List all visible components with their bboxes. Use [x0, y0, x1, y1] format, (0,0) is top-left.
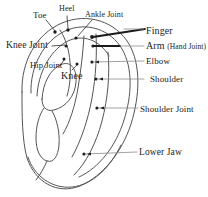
label-arm-hand-joint: Arm (Hand Joint) [146, 41, 206, 51]
leader-lower-jaw [85, 152, 137, 154]
point-ankle-joint [74, 36, 77, 39]
ear-reflexology-figure: Toe Heel Ankle Joint Finger Arm (Hand Jo… [0, 0, 208, 197]
leader-heel [67, 16, 68, 28]
label-elbow: Elbow [146, 57, 170, 66]
label-heel: Heel [59, 5, 75, 13]
label-lower-jaw: Lower Jaw [139, 148, 182, 158]
arrowhead-shoulder [99, 77, 103, 80]
label-arm-main: Arm [146, 40, 167, 51]
label-knee-joint: Knee Joint [6, 41, 48, 51]
label-ankle-joint: Ankle Joint [85, 11, 123, 19]
scaphoid-fossa-line [72, 34, 96, 157]
ear-diagram-svg [0, 0, 208, 197]
point-heel [66, 28, 69, 31]
label-hip-joint: Hip Joint [30, 61, 62, 70]
label-arm-parenthetical: (Hand Joint) [167, 42, 206, 51]
label-toe: Toe [33, 11, 47, 20]
leader-knee-joint [52, 45, 65, 46]
tragus-contour [36, 108, 59, 161]
label-shoulder: Shoulder [150, 75, 183, 84]
label-shoulder-joint: Shoulder Joint [140, 105, 194, 114]
leader-elbow [93, 61, 144, 62]
label-knee: Knee [61, 71, 83, 81]
leader-ankle [78, 20, 92, 36]
label-finger: Finger [146, 26, 173, 36]
antihelix-body [63, 36, 84, 134]
arrowhead-shoulder-joint [100, 106, 104, 109]
